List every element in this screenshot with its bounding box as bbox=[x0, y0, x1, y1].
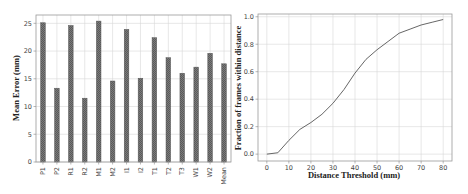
bar-m2 bbox=[110, 81, 115, 162]
bar-r1 bbox=[69, 26, 74, 162]
x-tick-label: 80 bbox=[439, 164, 447, 172]
y-tick-label: 0.4 bbox=[244, 95, 254, 103]
line-chart-y-axis-label: Fraction of frames within distance bbox=[234, 25, 243, 150]
bar-chart-mean-error: 0510152025 P1P2R1R2M1M2I1I2T1T2T3W1W2Mea… bbox=[0, 0, 234, 194]
x-tick-label: 10 bbox=[285, 164, 293, 172]
y-tick-label: 0.6 bbox=[244, 68, 254, 76]
bar-chart-canvas: 0510152025 P1P2R1R2M1M2I1I2T1T2T3W1W2Mea… bbox=[0, 0, 234, 194]
bar-mean bbox=[222, 64, 227, 162]
y-tick-label: 0 bbox=[28, 158, 32, 166]
x-tick-label: 0 bbox=[265, 164, 269, 172]
line-chart-grid bbox=[258, 14, 452, 161]
bar-chart-y-axis-label: Mean Error (mm) bbox=[11, 55, 21, 121]
bar-chart-y-ticks: 0510152025 bbox=[24, 20, 36, 167]
y-tick-label: 15 bbox=[24, 75, 32, 83]
y-tick-label: 20 bbox=[24, 47, 32, 55]
x-tick-label: M2 bbox=[109, 167, 117, 177]
line-chart-fraction-within-distance: 0.00.20.40.60.81.0 01020304050607080 Fra… bbox=[234, 0, 468, 194]
bar-chart-frame bbox=[36, 15, 231, 162]
x-tick-label: W1 bbox=[192, 167, 200, 178]
x-tick-label: P1 bbox=[39, 167, 47, 175]
y-tick-label: 10 bbox=[24, 103, 32, 111]
y-tick-label: 25 bbox=[24, 20, 32, 28]
bar-chart-x-ticks: P1P2R1R2M1M2I1I2T1T2T3W1W2Mean bbox=[39, 162, 228, 185]
line-chart-x-axis-label: Distance Threshold (mm) bbox=[308, 170, 400, 180]
bar-t2 bbox=[166, 58, 171, 162]
bar-chart-grid bbox=[36, 15, 231, 162]
y-tick-label: 0.0 bbox=[244, 150, 254, 158]
x-tick-label: T3 bbox=[178, 167, 186, 176]
bar-i2 bbox=[138, 78, 143, 162]
x-tick-label: R2 bbox=[81, 167, 89, 176]
y-tick-label: 0.2 bbox=[244, 123, 254, 131]
y-tick-label: 5 bbox=[28, 131, 32, 139]
x-tick-label: 70 bbox=[417, 164, 425, 172]
bar-i1 bbox=[124, 29, 129, 162]
x-tick-label: I1 bbox=[123, 167, 131, 173]
bar-w2 bbox=[208, 53, 213, 162]
x-tick-label: R1 bbox=[67, 167, 75, 176]
bar-t3 bbox=[180, 73, 185, 162]
bar-w1 bbox=[194, 67, 199, 162]
line-chart-canvas: 0.00.20.40.60.81.0 01020304050607080 Fra… bbox=[234, 0, 468, 194]
line-chart-y-ticks: 0.00.20.40.60.81.0 bbox=[244, 13, 258, 158]
x-tick-label: P2 bbox=[53, 167, 61, 175]
bar-p1 bbox=[41, 23, 46, 162]
bar-t1 bbox=[152, 38, 157, 162]
x-tick-label: I2 bbox=[137, 167, 145, 173]
x-tick-label: Mean bbox=[220, 167, 228, 185]
x-tick-label: T2 bbox=[165, 167, 173, 176]
x-tick-label: T1 bbox=[151, 167, 159, 176]
bar-p2 bbox=[55, 88, 60, 162]
y-tick-label: 0.8 bbox=[244, 41, 254, 49]
bar-chart-bars bbox=[41, 21, 227, 162]
y-tick-label: 1.0 bbox=[244, 13, 254, 21]
bar-m1 bbox=[96, 21, 101, 162]
x-tick-label: W2 bbox=[206, 167, 214, 178]
bar-r2 bbox=[82, 98, 87, 162]
x-tick-label: M1 bbox=[95, 167, 103, 177]
